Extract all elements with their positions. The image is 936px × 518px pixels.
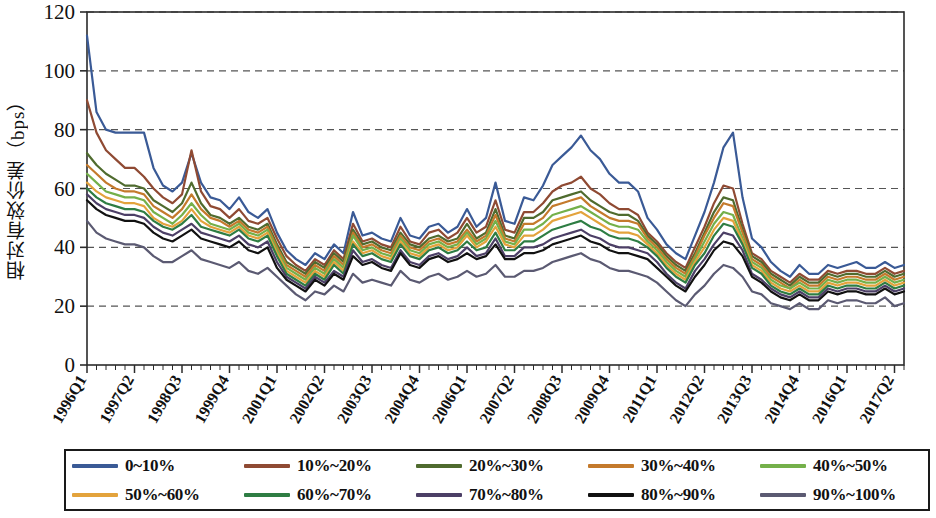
legend-label: 50%~60% [125,485,200,505]
legend-item-70-80[interactable]: 70%~80% [416,485,588,505]
y-tick-label: 80 [54,118,75,142]
legend-item-60-70[interactable]: 60%~70% [244,485,416,505]
y-tick-label: 120 [44,0,76,24]
x-tick-label: 2016Q1 [809,372,850,426]
legend-swatch-icon [416,493,462,497]
legend-item-20-30[interactable]: 20%~30% [416,456,588,476]
legend-swatch-icon [244,464,290,468]
legend-item-40-50[interactable]: 40%~50% [760,456,932,476]
legend-swatch-icon [72,493,118,497]
legend-label: 80%~90% [641,485,716,505]
x-tick-label: 2004Q4 [381,372,422,426]
x-tick-label: 2001Q1 [239,372,280,426]
chart-figure: 相对有效价差（bps） 0204060801001201996Q11997Q21… [0,0,936,518]
x-tick-label: 2012Q2 [666,372,707,426]
line-chart-svg: 0204060801001201996Q11997Q21998Q31999Q42… [0,0,936,440]
x-tick-label: 2013Q3 [714,372,755,426]
legend-item-10-20[interactable]: 10%~20% [244,456,416,476]
legend-label: 60%~70% [297,485,372,505]
legend-row-2: 50%~60% 60%~70% 70%~80% 80%~90% 90%~100% [66,480,928,509]
legend-item-0-10[interactable]: 0~10% [72,456,244,476]
x-tick-label: 2006Q1 [429,372,470,426]
x-tick-label: 2007Q2 [476,372,517,426]
y-tick-label: 100 [44,59,76,83]
legend-swatch-icon [760,464,806,468]
legend-label: 10%~20% [297,456,372,476]
legend-item-50-60[interactable]: 50%~60% [72,485,244,505]
x-tick-label: 2002Q2 [286,372,327,426]
legend-row-1: 0~10% 10%~20% 20%~30% 30%~40% 40%~50% [66,451,928,480]
x-tick-label: 1999Q4 [191,372,232,426]
legend-label: 40%~50% [813,456,888,476]
x-tick-label: 2011Q1 [619,372,660,425]
x-tick-label: 2008Q3 [524,372,565,426]
legend-label: 0~10% [125,456,175,476]
legend-item-80-90[interactable]: 80%~90% [588,485,760,505]
legend-label: 20%~30% [469,456,544,476]
y-tick-label: 20 [54,294,75,318]
x-tick-label: 1996Q1 [49,372,90,426]
legend-swatch-icon [588,493,634,497]
legend-swatch-icon [416,464,462,468]
x-tick-label: 1998Q3 [144,372,185,426]
x-tick-label: 2009Q4 [571,372,612,426]
legend-label: 90%~100% [813,485,896,505]
x-tick-label: 1997Q2 [96,372,137,426]
x-tick-label: 2014Q4 [761,372,802,426]
legend-swatch-icon [244,493,290,497]
legend-swatch-icon [760,493,806,497]
legend-swatch-icon [72,464,118,468]
x-tick-label: 2003Q3 [334,372,375,426]
y-tick-label: 40 [54,235,75,259]
plot-area: 0204060801001201996Q11997Q21998Q31999Q42… [0,0,936,440]
legend-label: 30%~40% [641,456,716,476]
legend-item-90-100[interactable]: 90%~100% [760,485,932,505]
chart-legend: 0~10% 10%~20% 20%~30% 30%~40% 40%~50% [64,449,930,511]
legend-swatch-icon [588,464,634,468]
legend-item-30-40[interactable]: 30%~40% [588,456,760,476]
x-tick-label: 2017Q2 [856,372,897,426]
legend-label: 70%~80% [469,485,544,505]
y-tick-label: 60 [54,177,75,201]
